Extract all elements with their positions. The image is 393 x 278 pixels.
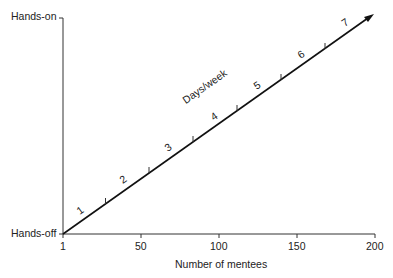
x-tick-label-150: 150 <box>288 240 306 252</box>
x-axis-title: Number of mentees <box>175 258 267 270</box>
y-label-hands-on: Hands-on <box>11 10 57 22</box>
x-tick-label-1: 1 <box>60 240 66 252</box>
x-tick-label-100: 100 <box>210 240 228 252</box>
y-label-hands-off: Hands-off <box>11 227 56 239</box>
x-tick-label-200: 200 <box>366 240 384 252</box>
x-tick-label-50: 50 <box>135 240 147 252</box>
diagram-canvas <box>0 0 393 278</box>
arrowhead-icon <box>364 14 374 22</box>
days-per-week-line <box>63 18 368 234</box>
